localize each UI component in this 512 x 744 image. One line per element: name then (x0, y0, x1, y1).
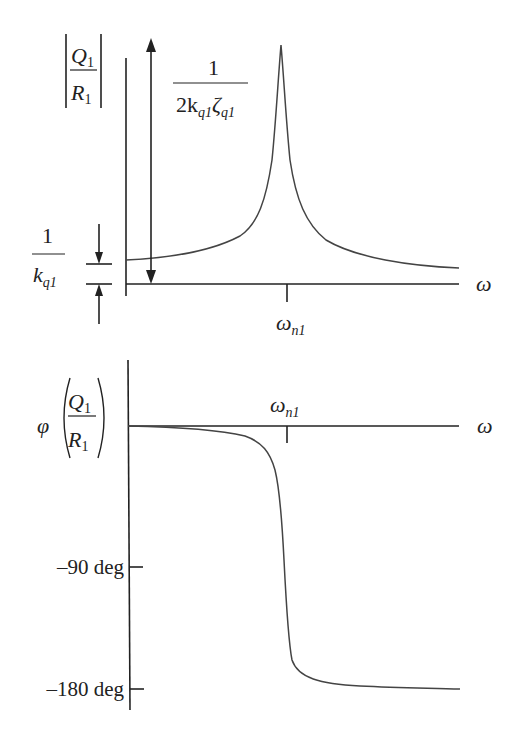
svg-text:R1: R1 (70, 80, 91, 107)
phase-wn-label: ωn1 (270, 392, 300, 420)
static-gain-arrow-up-head (95, 284, 103, 296)
phase-x-label: ω (477, 413, 493, 438)
phase-y-axis (128, 360, 130, 710)
svg-text:kq1: kq1 (33, 262, 57, 290)
static-gain-label: 1 kq1 (32, 223, 65, 290)
magnitude-plot: Q1 R1 1 2kq1ζq1 1 kq1 ω ωn1 (32, 34, 492, 338)
phase-plot: φ Q1 R1 ωn1 ω –90 deg –180 deg (37, 360, 493, 710)
svg-text:Q1: Q1 (68, 389, 91, 416)
svg-text:R1: R1 (67, 427, 88, 454)
arrow-up-head (146, 38, 156, 52)
magnitude-y-label: Q1 R1 (66, 34, 101, 108)
magnitude-wn-label: ωn1 (276, 310, 306, 338)
magnitude-curve (126, 45, 459, 268)
static-gain-arrow-down-head (95, 252, 103, 264)
svg-text:φ: φ (37, 413, 49, 438)
svg-text:2kq1ζq1: 2kq1ζq1 (176, 92, 235, 120)
svg-text:1: 1 (42, 223, 53, 248)
phase-curve (128, 426, 460, 689)
arrow-down-head (146, 270, 156, 284)
svg-text:Q1: Q1 (71, 43, 94, 70)
phase-tick-label-minus90: –90 deg (56, 555, 125, 579)
peak-label: 1 2kq1ζq1 (173, 55, 248, 120)
phase-y-label: φ Q1 R1 (37, 378, 104, 458)
magnitude-x-label: ω (476, 271, 492, 296)
phase-tick-label-minus180: –180 deg (45, 677, 124, 701)
frequency-response-diagram: Q1 R1 1 2kq1ζq1 1 kq1 ω ωn1 (0, 0, 512, 744)
svg-text:1: 1 (208, 55, 219, 80)
